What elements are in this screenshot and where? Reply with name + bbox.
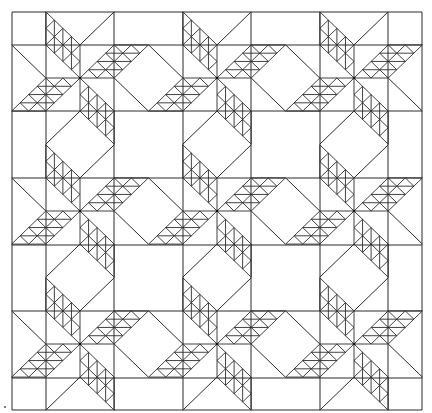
star-arm-triangle-split [397,186,406,194]
star-arm-triangle-split [89,70,98,78]
star-arm-triangle-split [200,78,209,86]
star-arm-triangle-split [311,352,320,360]
diamond-edge [388,344,422,377]
star-arm-triangle-split [388,61,397,69]
diamond-edge [12,311,46,344]
star-arm-triangle-split [46,303,55,311]
star-arm-triangle-split [191,28,200,36]
star-arm-triangle-split [131,45,140,53]
star-arm-triangle-split [354,369,363,377]
star-arm-triangle-split [54,28,63,36]
star-arm-triangle-split [54,311,63,319]
star-center-point [353,343,356,346]
star-arm-triangle-split [37,219,46,227]
star-arm-triangle-split [20,236,29,244]
star-arm-triangle-split [183,344,192,352]
star-arm-triangle-split [46,170,55,178]
star-arm-triangle-split [54,219,63,227]
diamond-edge [12,178,46,211]
star-arm-triangle-split [183,303,192,311]
star-arm-triangle-split [63,344,72,352]
star-arm-triangle-split [191,352,200,360]
star-arm-triangle-split [320,286,329,294]
star-arm-triangle-split [208,45,217,53]
star-arm-triangle-split [380,111,389,119]
star-arm-triangle-split [97,327,106,335]
star-arm-triangle-split [251,311,260,319]
star-arm-triangle-split [388,327,397,335]
star-arm-triangle-split [320,153,329,161]
diamond-edge [354,12,388,45]
star-arm-triangle-split [71,327,80,335]
star-arm-triangle-split [311,219,320,227]
star-arm-triangle-split [226,70,235,78]
star-arm-triangle-split [234,61,243,69]
star-arm-triangle-split [251,327,260,335]
star-arm-triangle-split [268,311,277,319]
star-arm-triangle-split [80,219,89,227]
star-arm-triangle-split [363,361,372,369]
star-arm-triangle-split [354,236,363,244]
star-arm-triangle-split [20,103,29,111]
star-arm-triangle-split [337,344,346,352]
star-arm-triangle-split [260,319,269,327]
star-arm-triangle-split [97,194,106,202]
star-arm-triangle-split [226,336,235,344]
star-arm-triangle-split [234,369,243,377]
star-arm-triangle-split [80,103,89,111]
star-arm-triangle-split [371,103,380,111]
star-arm-triangle-split [123,319,132,327]
star-arm-triangle-split [354,103,363,111]
star-arm-triangle-split [371,61,380,69]
star-arm-triangle-split [345,311,354,319]
star-arm-triangle-split [388,194,397,202]
star-arm-triangle-split [208,311,217,319]
star-arm-triangle-split [380,319,389,327]
star-arm-triangle-split [54,161,63,169]
star-arm-triangle-split [191,161,200,169]
star-arm-triangle-split [251,45,260,53]
diamond-edge [149,178,183,211]
star-arm-triangle-split [89,111,98,119]
star-arm-triangle-split [46,228,55,236]
star-arm-triangle-split [311,369,320,377]
star-arm-triangle-split [388,178,397,186]
star-center-point [79,343,82,346]
star-arm-triangle-split [97,61,106,69]
diamond-edge [286,178,320,211]
star-arm-triangle-split [345,45,354,53]
star-arm-triangle-split [89,95,98,103]
star-arm-triangle-split [106,394,115,402]
star-arm-triangle-split [328,311,337,319]
star-arm-triangle-split [54,45,63,53]
diamond-edge [114,211,148,244]
star-arm-triangle-split [54,294,63,302]
star-arm-triangle-split [166,95,175,103]
star-arm-triangle-split [328,28,337,36]
star-arm-triangle-split [97,252,106,260]
star-arm-triangle-split [63,303,72,311]
quilt-canvas [0,0,432,413]
star-arm-triangle-split [345,178,354,186]
star-arm-triangle-split [131,311,140,319]
star-arm-triangle-split [71,194,80,202]
star-arm-triangle-split [46,286,55,294]
star-arm-triangle-split [328,219,337,227]
star-arm-triangle-split [354,86,363,94]
star-arm-triangle-split [320,228,329,236]
diamond-edge [46,377,80,410]
star-arm-triangle-split [157,103,166,111]
star-arm-triangle-split [234,103,243,111]
star-arm-triangle-split [234,385,243,393]
star-arm-triangle-split [251,178,260,186]
star-arm-triangle-split [123,186,132,194]
star-arm-triangle-split [320,78,329,86]
star-arm-triangle-split [328,45,337,53]
star-arm-triangle-split [114,194,123,202]
star-arm-triangle-split [337,211,346,219]
diamond-edge [286,45,320,78]
star-arm-triangle-split [217,219,226,227]
star-arm-triangle-split [183,153,192,161]
star-arm-triangle-split [20,369,29,377]
star-arm-triangle-split [337,319,346,327]
